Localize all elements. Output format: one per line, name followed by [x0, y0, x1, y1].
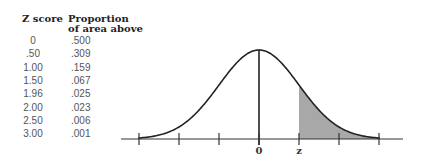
normal-curve-diagram: 0 z	[0, 0, 432, 165]
shaded-tail-area	[299, 85, 380, 139]
axis-label-z: z	[296, 145, 302, 156]
axis-label-zero: 0	[256, 145, 263, 156]
